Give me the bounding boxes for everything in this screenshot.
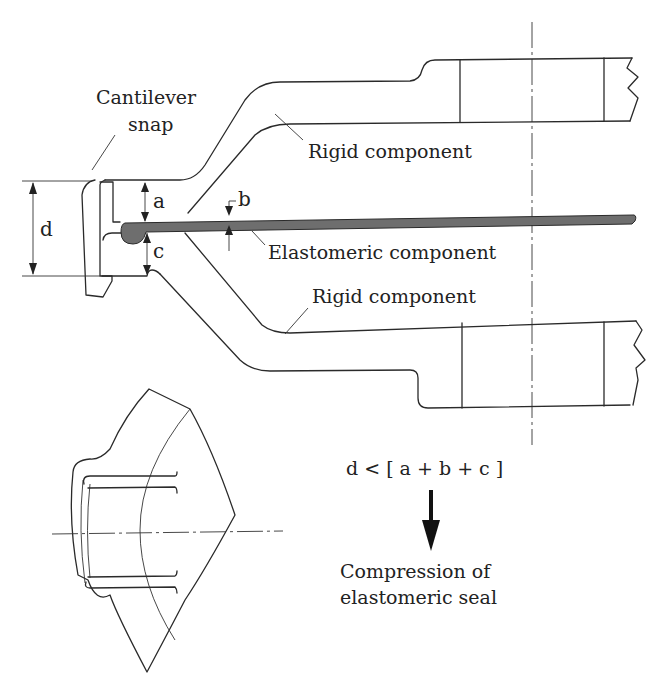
- dim-d-arrow-bottom: [29, 263, 37, 275]
- label-rigid-top: Rigid component: [308, 140, 472, 162]
- result-arrow-shaft: [429, 490, 433, 522]
- horizontal-centerline: [52, 531, 283, 534]
- dim-d-arrow-top: [29, 182, 37, 194]
- perspective-rim-arc-1: [81, 480, 85, 583]
- leader-cantilever: [92, 135, 115, 170]
- leader-rigid-bottom: [285, 308, 308, 334]
- result-arrow-head: [422, 520, 440, 551]
- snap-arm-top-2: [88, 487, 177, 493]
- cantilever-bottom-hook: [102, 270, 160, 276]
- result-line-2: elastomeric seal: [340, 586, 497, 608]
- label-rigid-bottom: Rigid component: [312, 285, 476, 307]
- formula-text: d < [ a + b + c ]: [346, 457, 503, 479]
- dim-a-label: a: [153, 189, 165, 213]
- snap-arm-top-1: [84, 472, 177, 484]
- dim-a-arrow-bottom: [141, 212, 149, 222]
- cantilever-snap-outline: [82, 180, 112, 297]
- label-elastomeric: Elastomeric component: [268, 241, 497, 263]
- label-snap: snap: [128, 113, 173, 135]
- cantilever-inner-frame: [100, 182, 120, 222]
- leader-elastomeric: [252, 231, 265, 245]
- rigid-bottom-break: [633, 321, 645, 405]
- diagram-canvas: d a c b Cantilever snap Rigid component …: [0, 0, 665, 696]
- label-cantilever: Cantilever: [96, 86, 197, 108]
- snap-fit-seal-diagram: d a c b Cantilever snap Rigid component …: [0, 0, 665, 696]
- dim-c-label: c: [153, 239, 164, 263]
- perspective-rim-arc-2: [88, 484, 91, 578]
- leader-rigid-top: [275, 114, 303, 140]
- elastomeric-component: [121, 215, 636, 244]
- rigid-top-break: [627, 58, 638, 121]
- dim-a-arrow-top: [141, 182, 149, 192]
- rigid-component-top-inner: [188, 121, 630, 213]
- dim-b-label: b: [238, 187, 251, 211]
- snap-arm-bottom-1: [88, 571, 177, 577]
- perspective-view-outline: [71, 389, 235, 672]
- dim-b-arrow-top: [225, 206, 233, 216]
- dim-d-label: d: [40, 217, 53, 241]
- snap-arm-bottom-2: [86, 582, 178, 593]
- result-line-1: Compression of: [340, 560, 492, 582]
